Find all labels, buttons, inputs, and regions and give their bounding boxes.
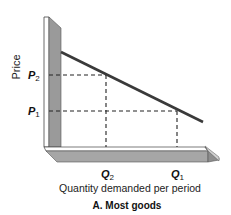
price-axis — [44, 17, 61, 147]
p2-label: P2 — [28, 69, 40, 83]
price-axis-edge — [44, 17, 49, 147]
q1-label: Q1 — [171, 168, 185, 182]
guide-lines — [49, 75, 177, 147]
q2-label: Q2 — [101, 168, 115, 182]
quantity-axis-base — [46, 151, 208, 162]
y-axis-label: Price — [10, 54, 22, 79]
quantity-axis-edge — [44, 147, 208, 151]
quantity-axis — [44, 146, 219, 162]
x-axis-label: Quantity demanded per period — [59, 182, 201, 194]
figure-caption: A. Most goods — [93, 200, 162, 211]
price-axis-panel — [49, 17, 61, 147]
p1-label: P1 — [28, 105, 40, 119]
demand-curve — [61, 52, 203, 122]
demand-diagram: Price P2 P1 Q2 Q1 Quantity demanded per … — [0, 0, 231, 215]
